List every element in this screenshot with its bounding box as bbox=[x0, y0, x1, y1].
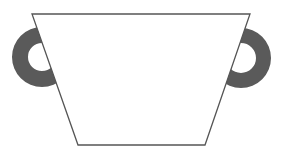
cup-diagram: Cup with two handles bbox=[0, 0, 281, 155]
cup-body bbox=[32, 14, 250, 145]
cup-svg bbox=[0, 0, 281, 155]
